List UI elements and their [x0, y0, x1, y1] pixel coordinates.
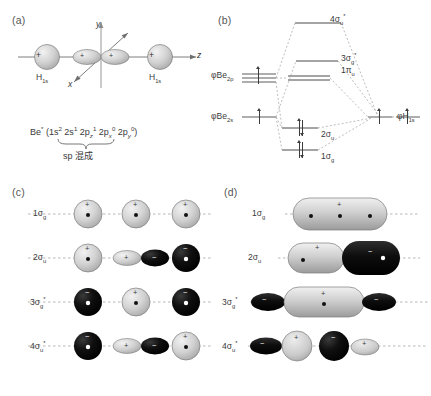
mo-label-4sigma-u-star: 4σu*	[330, 14, 345, 26]
axis-label-y: y	[96, 20, 100, 29]
sp-lobe-sign-right: +	[109, 52, 113, 59]
panel-label-d: (d)	[224, 186, 237, 198]
electron-be2p-spin-up	[258, 68, 259, 84]
mo-3sg-sub: g	[351, 59, 354, 65]
panel-c-row-label-1sigma-g: 1σg	[33, 209, 46, 220]
c-row4-star: *	[43, 340, 45, 346]
c-sign-r3-i1: −	[85, 289, 89, 297]
mo-label-1pi-u: 1πu	[341, 66, 355, 77]
ao-be2s-sub: 2s	[227, 117, 233, 123]
c-sign-r4-lobe-left: +	[124, 342, 128, 350]
electron-be2p-arrowhead	[256, 66, 260, 69]
atom-label-h-left: H1s	[36, 73, 48, 84]
mo-1pu-name: 1π	[341, 65, 352, 75]
ao-be2s-atom: Be	[217, 111, 227, 121]
mo-1sg-sub: g	[331, 157, 334, 163]
d-row3-star: *	[235, 296, 237, 302]
ao-h1s-sub: 1s	[409, 117, 415, 123]
ao-be2p-sub: 2p	[227, 76, 233, 82]
config-star: *	[41, 125, 43, 132]
mo-2su-sub: u	[331, 135, 334, 141]
c-row2-base: 2σ	[33, 252, 43, 262]
c-sign-r3-i3: −	[183, 289, 187, 297]
d-row2-base: 2σ	[248, 252, 258, 262]
panel-d-row-label-3sigma-g-star: 3σg*	[222, 297, 237, 309]
electron-be2s-arrowhead	[257, 108, 261, 111]
hybridization-note: sp 混成	[63, 152, 93, 161]
d-sign-r4-1: −	[260, 340, 264, 348]
d-row4-sub: u	[232, 347, 235, 353]
d-row3-base: 3σ	[222, 297, 232, 307]
mo-4su-name: 4σ	[330, 14, 340, 24]
mo-3sg-name: 3σ	[341, 53, 351, 63]
ao-label-be2p: φBe2p	[211, 71, 233, 82]
panel-label-a: (a)	[12, 14, 25, 26]
c-sign-r3-i2: +	[133, 289, 137, 297]
electron-1sigma-g-arrowhead-up	[297, 140, 301, 143]
c-row3-star: *	[43, 296, 45, 302]
d-row2-sub: u	[258, 258, 261, 264]
d-sign-r3-3: −	[374, 296, 378, 304]
panel-d-graphic	[248, 198, 428, 361]
d-row4-base: 4σ	[222, 341, 232, 351]
d-sign-r1-1: +	[337, 201, 341, 209]
d-sign-r4-3: −	[331, 334, 335, 342]
ao-be2p-atom: Be	[217, 70, 227, 80]
c-row3-sub: g	[40, 303, 43, 309]
d-sign-r3-2: +	[321, 290, 325, 298]
config-element: Be	[30, 127, 41, 137]
panel-d-row-label-2sigma-u: 2σu	[248, 253, 261, 264]
d-sign-r4-2: +	[294, 334, 298, 342]
c-sign-r2-lobe-right: −	[152, 254, 156, 262]
d-row3-sub: g	[232, 303, 235, 309]
config-term-2px: 2px0	[99, 127, 115, 137]
c-row4-sub: u	[40, 347, 43, 353]
mo-3sg-star: *	[354, 52, 356, 58]
config-term-1s: 1s2	[49, 127, 62, 137]
mo-4su-star: *	[343, 13, 345, 19]
electron-h1s-left-spin-up	[379, 110, 380, 124]
axis-label-z: z	[197, 51, 201, 60]
mo-4su-sub: u	[340, 20, 343, 26]
c-sign-r4-i1: −	[85, 333, 89, 341]
d-row4-star: *	[235, 340, 237, 346]
d-sign-r4-4: +	[362, 340, 366, 348]
orbital-sign-right-h: +	[149, 51, 154, 60]
mo-label-1sigma-g: 1σg	[321, 152, 334, 163]
d-row1-sub: g	[262, 214, 265, 220]
electron-2sigma-u-arrowhead-up	[297, 118, 301, 121]
figure-root: (a) y z x + + + + H1s H1s Be* (1s2 2s1 2…	[0, 0, 431, 396]
atom-label-h-right: H1s	[149, 73, 161, 84]
c-row2-sub: u	[43, 258, 46, 264]
c-sign-r4-lobe-right: −	[152, 342, 156, 350]
panel-c-row-label-4sigma-u-star: 4σu*	[30, 341, 45, 353]
mo-1sg-name: 1σ	[321, 151, 331, 161]
mo-1pu-sub: u	[352, 71, 355, 77]
c-row3-base: 3σ	[30, 297, 40, 307]
config-close-paren: )	[134, 127, 137, 137]
c-row4-base: 4σ	[30, 341, 40, 351]
panel-c-row-label-2sigma-u: 2σu	[33, 253, 46, 264]
d-sign-r2-1: +	[315, 244, 319, 252]
mo-label-2sigma-u: 2σu	[321, 130, 334, 141]
ao-label-h1s: φH1s	[397, 112, 415, 123]
panel-label-c: (c)	[12, 186, 25, 198]
mo-2su-name: 2σ	[321, 129, 331, 139]
orbital-canvas	[0, 0, 431, 396]
d-sign-r3-1: −	[262, 296, 266, 304]
orbital-sign-left-h: +	[36, 51, 41, 60]
electron-h1s-right-spin-up	[407, 110, 408, 124]
sp-lobe-sign-left: +	[80, 52, 84, 59]
electron-be2s-spin-up	[259, 110, 260, 124]
panel-d-row-label-4sigma-u-star: 4σu*	[222, 341, 237, 353]
atom-h-right-sub: 1s	[155, 78, 161, 84]
c-row1-base: 1σ	[33, 208, 43, 218]
d-row1-base: 1σ	[252, 208, 262, 218]
c-sign-r1-i2: +	[133, 201, 137, 209]
config-term-2py: 2py0	[118, 127, 134, 137]
c-row1-sub: g	[43, 214, 46, 220]
electron-1sigma-g-arrowhead-down	[300, 155, 304, 158]
be-configuration: Be* (1s2 2s1 2pz1 2px0 2py0)	[30, 126, 137, 139]
c-sign-r2-lobe-left: +	[124, 254, 128, 262]
config-term-2pz: 2pz1	[80, 127, 96, 137]
